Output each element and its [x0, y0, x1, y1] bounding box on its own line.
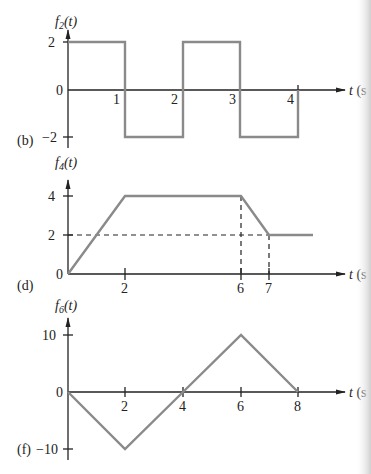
ytick-f-10: 10: [42, 328, 56, 343]
y-axis-label-b: f2(t): [55, 14, 77, 31]
xtick-b-3: 3: [229, 92, 236, 107]
ytick-f-0: 0: [56, 385, 63, 400]
ytick-b-0: 0: [56, 83, 63, 98]
panel-label-b: (b): [17, 133, 34, 149]
panel-label-d: (d): [17, 278, 34, 294]
xtick-f-8: 8: [294, 399, 301, 414]
ytick-b-neg2: −2: [42, 130, 57, 145]
figure: f2(t) 2 0 −2 1 2 3 4 (b) t (s f4(t) 4 2 …: [0, 0, 371, 474]
xtick-d-2: 2: [121, 281, 128, 296]
panel-label-f: (f): [17, 442, 31, 458]
ytick-d-0: 0: [56, 267, 63, 282]
xtick-f-6: 6: [237, 399, 244, 414]
xtick-d-6: 6: [237, 281, 244, 296]
chart-d: f4(t) 4 2 0 2 6 7 (d) t (s: [17, 155, 367, 296]
xtick-f-4: 4: [179, 399, 186, 414]
xtick-f-2: 2: [121, 399, 128, 414]
chart-f: f6(t) 10 0 −10 2 4 6 8 (f) t (s: [17, 298, 367, 460]
ytick-d-2: 2: [48, 228, 55, 243]
ytick-f-neg10: −10: [36, 442, 58, 457]
y-axis-label-f: f6(t): [55, 298, 77, 315]
xtick-b-4: 4: [287, 92, 294, 107]
xtick-b-2: 2: [171, 92, 178, 107]
xtick-d-7: 7: [265, 281, 272, 296]
ytick-d-4: 4: [48, 189, 55, 204]
page-edge-shadow: [355, 0, 371, 474]
y-axis-label-d: f4(t): [55, 155, 77, 172]
xtick-b-1: 1: [113, 92, 120, 107]
chart-b: f2(t) 2 0 −2 1 2 3 4 (b) t (s: [17, 14, 367, 149]
ytick-b-2: 2: [48, 35, 55, 50]
